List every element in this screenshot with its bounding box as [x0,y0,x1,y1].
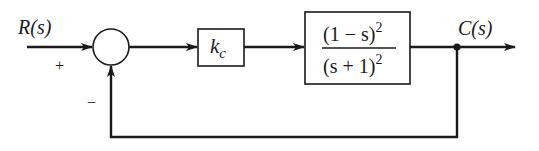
plant-denominator: (s + 1)2 [323,52,382,78]
output-label: C(s) [458,17,493,40]
block-diagram: R(s) + kc (1 − s)2 (s + 1)2 C(s) − [0,0,539,151]
input-label: R(s) [17,16,52,39]
feedback-minus-sign: − [87,94,96,111]
controller-block: kc [198,29,244,66]
plant-block: (1 − s)2 (s + 1)2 [305,12,410,84]
input-signal: R(s) + [17,16,92,74]
summing-junction [93,29,129,65]
input-plus-sign: + [55,57,64,74]
plant-numerator: (1 − s)2 [323,20,382,46]
output-signal: C(s) [410,17,515,51]
